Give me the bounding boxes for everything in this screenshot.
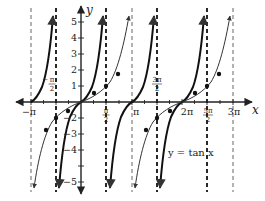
- svg-text:3: 3: [71, 48, 77, 59]
- label-neg-half-pi: − π 2: [42, 76, 55, 93]
- point: [92, 91, 96, 95]
- svg-text:π: π: [50, 76, 55, 84]
- svg-text:4: 4: [71, 32, 77, 43]
- point: [104, 84, 108, 88]
- svg-text:−4: −4: [63, 144, 77, 155]
- svg-text:2: 2: [71, 64, 77, 75]
- svg-text:2: 2: [155, 85, 159, 93]
- svg-text:5π: 5π: [203, 107, 212, 115]
- point: [54, 116, 58, 120]
- svg-text:2: 2: [206, 116, 210, 124]
- point: [217, 72, 221, 76]
- svg-text:2: 2: [104, 116, 108, 124]
- svg-text:−5: −5: [63, 176, 77, 187]
- point: [155, 116, 159, 120]
- y-axis-label: y: [85, 3, 93, 17]
- label-2pi: 2π: [181, 106, 193, 117]
- label-neg-pi: −π: [22, 106, 36, 117]
- tangent-graph: y x 5 4 3 2 1 −2 −3 −4 −5 −π − π 2 π 2 π…: [0, 0, 265, 201]
- svg-text:2: 2: [50, 85, 54, 93]
- point: [116, 72, 120, 76]
- point: [168, 109, 172, 113]
- svg-text:3π: 3π: [152, 76, 161, 84]
- label-three-half-pi: 3π 2: [152, 76, 162, 93]
- label-half-pi: π 2: [103, 107, 110, 124]
- label-five-half-pi: 5π 2: [203, 107, 213, 124]
- svg-text:−3: −3: [63, 128, 77, 139]
- point: [144, 128, 148, 132]
- svg-text:5: 5: [71, 16, 77, 27]
- svg-text:−: −: [42, 76, 48, 84]
- point: [193, 91, 197, 95]
- svg-text:−2: −2: [63, 112, 77, 123]
- point: [205, 84, 209, 88]
- label-pi: π: [133, 106, 139, 117]
- curve-annotation: y = tan x: [167, 147, 214, 158]
- svg-text:π: π: [104, 107, 109, 115]
- point: [44, 128, 48, 132]
- x-axis-label: x: [252, 103, 259, 117]
- label-3pi: 3π: [228, 106, 240, 117]
- svg-text:1: 1: [71, 80, 77, 91]
